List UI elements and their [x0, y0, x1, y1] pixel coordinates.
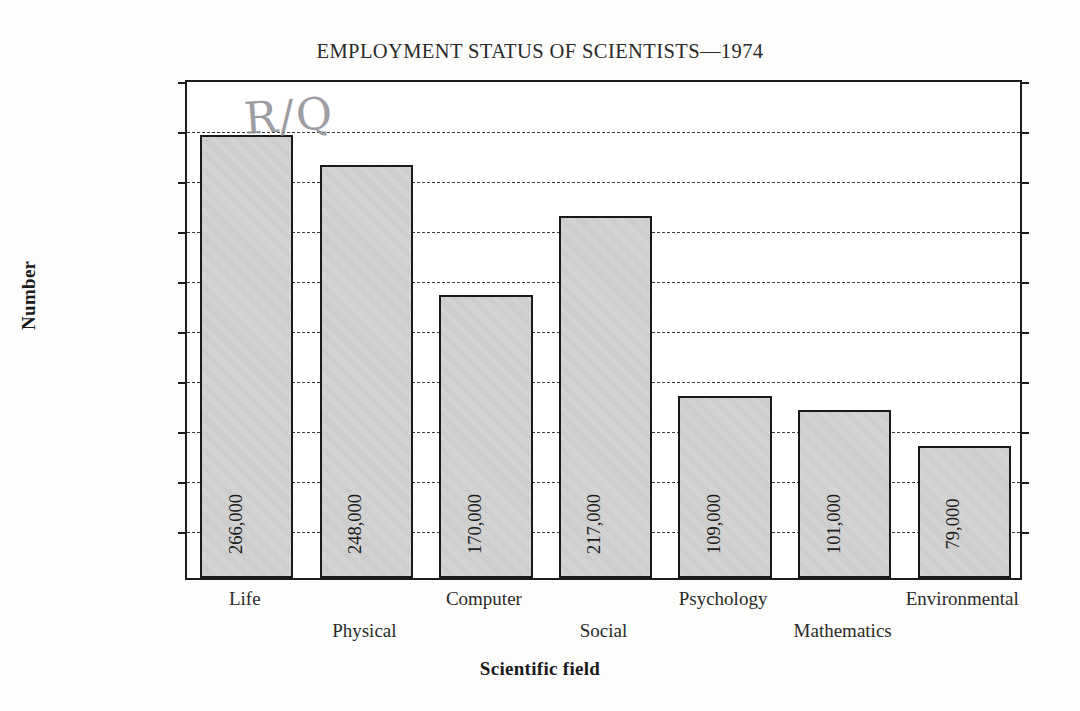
plot-area: 266,000248,000170,000217,000109,000101,0… [185, 80, 1022, 580]
axis-tick [178, 132, 187, 134]
axis-tick [1020, 82, 1029, 84]
x-axis-tick-label: Life [229, 588, 261, 610]
bar: 217,000 [559, 216, 652, 578]
axis-tick [1020, 182, 1029, 184]
x-axis-tick-label: Social [580, 620, 628, 642]
axis-tick [1020, 132, 1029, 134]
bar-value-label: 79,000 [943, 499, 964, 550]
axis-tick [178, 282, 187, 284]
bar: 266,000 [200, 135, 293, 578]
x-axis-tick-label: Environmental [906, 588, 1019, 610]
bar: 101,000 [798, 410, 891, 578]
axis-tick [178, 382, 187, 384]
axis-tick [1020, 232, 1029, 234]
bar-value-label: 170,000 [465, 494, 486, 554]
bar-value-label: 266,000 [226, 494, 247, 554]
x-axis-tick-label: Mathematics [794, 620, 892, 642]
x-axis-tick-label: Psychology [679, 588, 768, 610]
axis-tick [178, 82, 187, 84]
axis-tick [1020, 382, 1029, 384]
axis-tick [1020, 432, 1029, 434]
axis-tick [178, 482, 187, 484]
axis-tick [1020, 482, 1029, 484]
gridline [187, 182, 1020, 183]
bar: 248,000 [320, 165, 413, 578]
bar-value-label: 217,000 [584, 494, 605, 554]
y-axis-title: Number [18, 261, 40, 330]
x-axis-tick-label: Physical [332, 620, 396, 642]
bar-value-label: 248,000 [345, 494, 366, 554]
axis-tick [178, 532, 187, 534]
bar: 109,000 [678, 396, 771, 578]
axis-tick [1020, 332, 1029, 334]
axis-tick [178, 232, 187, 234]
x-axis-title: Scientific field [0, 658, 1080, 680]
x-axis-tick-label: Computer [446, 588, 522, 610]
axis-tick [178, 182, 187, 184]
bar: 170,000 [439, 295, 532, 578]
axis-tick [178, 432, 187, 434]
chart-title: EMPLOYMENT STATUS OF SCIENTISTS—1974 [0, 40, 1080, 63]
bar-value-label: 109,000 [704, 494, 725, 554]
axis-tick [1020, 282, 1029, 284]
gridline [187, 132, 1020, 133]
axis-tick [178, 332, 187, 334]
axis-tick [1020, 532, 1029, 534]
bar-value-label: 101,000 [824, 494, 845, 554]
bar: 79,000 [918, 446, 1011, 578]
